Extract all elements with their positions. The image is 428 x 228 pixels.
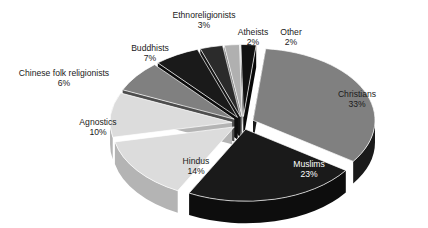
pie-slice-tops [110,45,375,202]
pie-chart-figure: Christians33%Muslims23%Hindus14%Agnostic… [0,0,428,228]
pie-chart-canvas [0,0,428,228]
